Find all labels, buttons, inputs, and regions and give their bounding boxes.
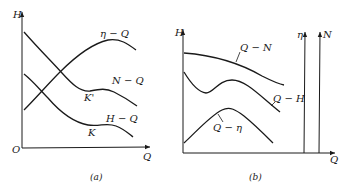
panel-b-caption: (b) [249,172,262,182]
panel-b-q-label: Q [330,154,338,165]
pump-characteristic-diagram: H O Q η − Q N − Q K' H − Q K (a) H Q η N… [0,0,351,191]
eta-axis-label: η [297,29,303,40]
panel-a: H O Q η − Q N − Q K' H − Q K (a) [12,9,151,182]
panel-a-q-label: Q [143,151,151,162]
q-eta-label: Q − η [213,122,242,133]
k-label: K [87,127,96,138]
panel-a-h-label: H [12,9,22,20]
n-q-label: N − Q [111,75,144,86]
k-prime-label: K' [83,92,94,103]
panel-b-h-label: H [174,27,184,38]
q-eta-leader [218,114,223,122]
q-h-label: Q − H [273,93,305,104]
panel-a-x-axis [22,147,150,148]
n-axis [319,32,320,153]
panel-a-origin-label: O [12,144,20,155]
q-n-leader [236,52,240,62]
n-q-curve [24,32,137,106]
n-axis-label: N [322,29,333,40]
h-q-label: H − Q [105,113,138,124]
panel-a-caption: (a) [90,172,103,182]
panel-b: H Q η N Q − N Q − H Q − η (b) [174,27,338,182]
eta-q-label: η − Q [100,28,129,39]
q-n-label: Q − N [240,42,273,53]
